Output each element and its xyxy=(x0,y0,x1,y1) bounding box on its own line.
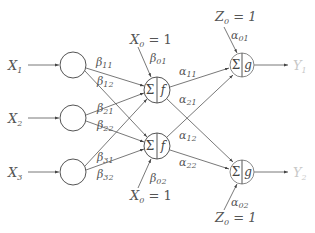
sum-symbol: Σ xyxy=(232,58,240,72)
weight-beta-12: β12 xyxy=(96,75,114,89)
activation-g: g xyxy=(244,58,252,72)
sum-symbol: Σ xyxy=(146,83,154,97)
weight-alpha-21: α21 xyxy=(179,93,197,107)
input-label-x1: X1 xyxy=(7,58,22,75)
output-node-2: Σ g xyxy=(230,160,254,184)
input-node-3 xyxy=(60,159,86,185)
output-node-1: Σ g xyxy=(230,53,254,77)
sum-symbol: Σ xyxy=(146,139,154,153)
bias-label-output-bottom: Z0 = 1 xyxy=(214,210,257,227)
weight-beta-01: β01 xyxy=(149,52,167,66)
output-label-y1: Y1 xyxy=(293,58,307,75)
weight-beta-02: β02 xyxy=(149,172,167,186)
edge-x1-h1 xyxy=(86,68,144,86)
neural-network-diagram: Σ f Σ f Σ g Σ g X1 X2 X3 Y1 Y2 β11 β12 β… xyxy=(0,0,315,233)
edge-x3-h1 xyxy=(85,99,147,166)
weight-beta-31: β31 xyxy=(96,151,114,165)
weight-alpha-11: α11 xyxy=(179,65,197,79)
weight-alpha-02: α02 xyxy=(231,196,249,210)
edge-x3-h2 xyxy=(86,149,144,170)
weight-beta-22: β22 xyxy=(96,119,114,133)
bias-label-output-top: Z0 = 1 xyxy=(214,9,257,26)
weight-beta-11: β11 xyxy=(95,56,113,70)
activation-g: g xyxy=(244,165,252,179)
hidden-node-1: Σ f xyxy=(144,77,170,103)
sum-symbol: Σ xyxy=(232,165,240,179)
weight-alpha-12: α12 xyxy=(179,129,197,143)
bias-label-hidden-top: X0 = 1 xyxy=(129,32,172,49)
hidden-node-2: Σ f xyxy=(144,133,170,159)
edge-h2-o1 xyxy=(167,75,233,137)
input-label-x3: X3 xyxy=(7,165,22,182)
input-label-x2: X2 xyxy=(7,111,22,128)
input-node-2 xyxy=(60,105,86,131)
weight-beta-32: β32 xyxy=(96,168,114,182)
weight-beta-21: β21 xyxy=(96,102,114,116)
output-label-y2: Y2 xyxy=(293,165,307,182)
weight-alpha-01: α01 xyxy=(231,29,249,43)
input-node-1 xyxy=(60,52,86,78)
bias-label-hidden-bottom: X0 = 1 xyxy=(129,188,172,205)
